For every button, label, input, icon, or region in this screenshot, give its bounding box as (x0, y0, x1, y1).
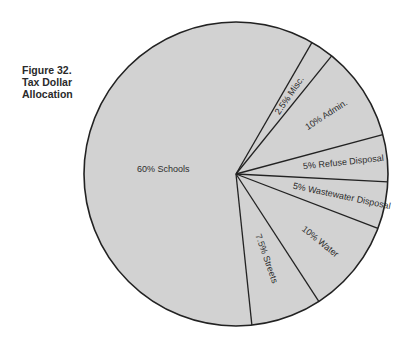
pie-chart: 2.5% Misc.10% Admin.5% Refuse Disposal5%… (0, 0, 406, 346)
slice-label-schools: 60% Schools (137, 164, 190, 174)
